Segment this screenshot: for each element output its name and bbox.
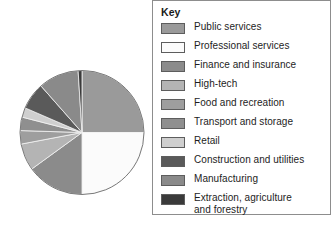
legend-box: Key Public servicesProfessional services… [152, 0, 331, 215]
legend-item-label: Food and recreation [194, 97, 284, 109]
legend-item-label: Professional services [194, 40, 290, 52]
legend-title: Key [161, 6, 324, 18]
legend-item: Retail [160, 135, 324, 152]
pie-chart-svg [19, 60, 145, 205]
legend-swatch [161, 118, 185, 129]
legend-item: Finance and insurance [160, 59, 324, 76]
legend-item-label: Public services [194, 21, 261, 33]
legend-items: Public servicesProfessional servicesFina… [160, 21, 324, 216]
pie-slice-group [20, 70, 144, 194]
legend-item-label: Manufacturing [194, 173, 258, 185]
legend-swatch [161, 23, 185, 34]
legend-swatch [161, 137, 185, 148]
legend-item-label: Construction and utilities [194, 154, 304, 166]
legend-item-label: Extraction, agriculture and forestry [194, 192, 292, 216]
legend-item: Extraction, agriculture and forestry [160, 192, 324, 216]
legend-swatch [161, 42, 185, 53]
legend-item-label: Finance and insurance [194, 59, 296, 71]
legend-swatch [161, 61, 185, 72]
legend-item: Transport and storage [160, 116, 324, 133]
pie-slice [82, 133, 144, 195]
legend-item-label: Retail [194, 135, 220, 147]
legend-item: Public services [160, 21, 324, 38]
legend-swatch [161, 175, 185, 186]
legend-item: Professional services [160, 40, 324, 57]
legend-swatch [161, 99, 185, 110]
pie-chart [19, 60, 145, 205]
legend-item-label: Transport and storage [194, 116, 293, 128]
chart-figure: Key Public servicesProfessional services… [0, 0, 331, 232]
legend-swatch [161, 80, 185, 91]
legend-item: High-tech [160, 78, 324, 95]
legend-item: Food and recreation [160, 97, 324, 114]
legend-swatch [161, 194, 185, 205]
pie-slice [82, 71, 144, 133]
legend-item: Construction and utilities [160, 154, 324, 171]
legend-item: Manufacturing [160, 173, 324, 190]
legend-swatch [161, 156, 185, 167]
legend-item-label: High-tech [194, 78, 237, 90]
